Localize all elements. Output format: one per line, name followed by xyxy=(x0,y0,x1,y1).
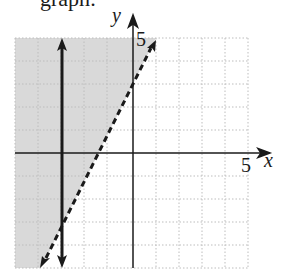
x-tick-label-5: 5 xyxy=(241,154,251,176)
y-tick-label-5: 5 xyxy=(136,28,146,50)
inequality-graph: graph: y 5 5 x xyxy=(0,0,288,277)
y-axis-label: y xyxy=(110,4,121,27)
header-fragment: graph: xyxy=(40,0,96,11)
x-axis-label: x xyxy=(263,149,273,171)
